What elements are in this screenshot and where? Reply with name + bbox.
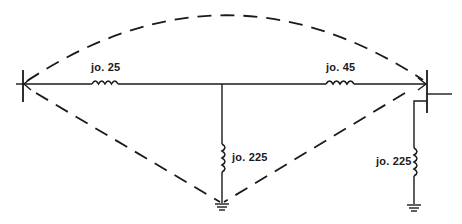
label-series-right: jo. 45 <box>326 61 355 73</box>
left-bus-node <box>16 70 31 102</box>
center-ground-icon <box>215 204 229 210</box>
right-ground-icon <box>407 205 421 211</box>
circuit-diagram: jo. 25 jo. 45 jo. 225 jo. 225 <box>0 0 462 224</box>
label-series-left: jo. 25 <box>91 61 120 73</box>
inductor-shunt-right-icon <box>414 148 417 176</box>
center-shunt-branch <box>222 84 225 203</box>
inductor-series-right-icon <box>326 81 354 84</box>
dashed-arc-top <box>27 15 423 81</box>
dashed-line-left-to-ground <box>36 93 220 202</box>
dashed-line-right-to-ground <box>224 93 405 202</box>
right-bus-node <box>414 70 452 148</box>
label-shunt-center: jo. 225 <box>232 151 268 163</box>
diagram-svg <box>0 0 462 224</box>
inductor-shunt-center-icon <box>222 144 225 172</box>
label-shunt-right: jo. 225 <box>376 155 412 167</box>
inductor-series-left-icon <box>92 81 118 84</box>
